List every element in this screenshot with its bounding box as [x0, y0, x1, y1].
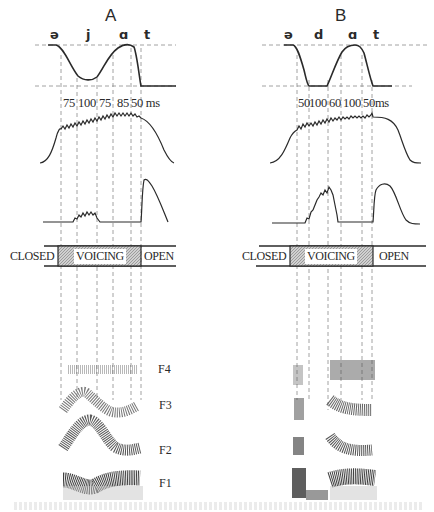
formant-label-f3: F3: [159, 398, 172, 413]
duration-label: 60: [329, 96, 341, 111]
phoneme-label: t: [373, 27, 379, 42]
duration-label: 100: [78, 96, 96, 111]
glottis-closed-label: CLOSED: [10, 249, 54, 264]
phoneme-label: ə: [50, 27, 59, 42]
glottis-voicing-label: VOICING: [305, 249, 357, 264]
panel-a: [35, 45, 176, 500]
formant-label-f2: F2: [159, 443, 172, 458]
spectrogram-b: [292, 360, 377, 500]
duration-label: 50 ms: [131, 96, 160, 111]
articulator-trajectory-curve: [284, 45, 392, 86]
formant-label-f4: F4: [158, 362, 171, 377]
glottis-open-label: OPEN: [144, 249, 174, 264]
duration-label: 85: [117, 96, 129, 111]
panel-b: [256, 45, 428, 500]
articulator-trajectory-curve: [48, 45, 176, 86]
panel-a-title: A: [105, 6, 116, 26]
glottis-voicing-label: VOICING: [74, 249, 126, 264]
cropped-caption-line: [14, 502, 424, 510]
articulation-diagram: [0, 0, 434, 512]
duration-label: 100: [343, 96, 361, 111]
phoneme-label: t: [144, 27, 150, 42]
duration-label: 75: [63, 96, 75, 111]
formant-band-f4: [68, 365, 138, 374]
formant-label-f1: F1: [159, 476, 172, 491]
formant-band-f3: [63, 392, 137, 413]
glottis-closed-label: CLOSED: [242, 249, 286, 264]
formant-band-f1: [63, 478, 140, 487]
amplitude-envelope-curve: [270, 113, 421, 163]
duration-label: 100: [309, 96, 327, 111]
duration-label: 75: [99, 96, 111, 111]
phoneme-label: ɑ: [348, 27, 357, 42]
amplitude-envelope-curve: [40, 113, 174, 163]
formant-band-f2: [63, 420, 140, 450]
panel-b-title: B: [335, 6, 346, 26]
frication-noise-curve: [43, 179, 168, 222]
duration-label: 50ms: [363, 96, 389, 111]
phoneme-label: ə: [284, 27, 293, 42]
phoneme-label: d: [314, 27, 323, 42]
phoneme-label: ɑ: [119, 27, 128, 42]
burst-noise-curve: [272, 184, 420, 224]
phoneme-label: j: [86, 27, 90, 42]
glottis-open-label: OPEN: [379, 249, 409, 264]
